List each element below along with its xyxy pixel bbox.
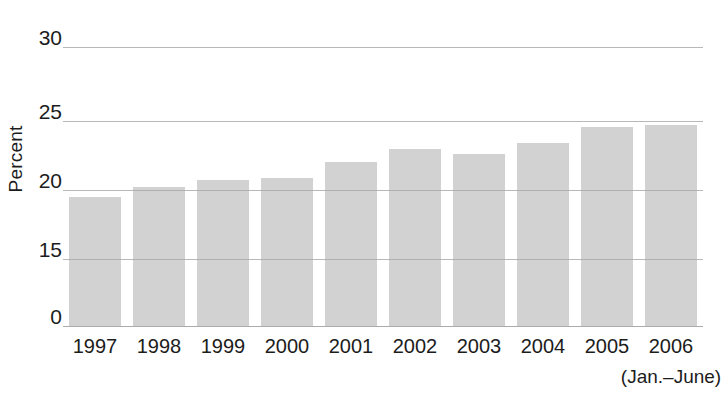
y-tick-label-25: 25	[16, 101, 62, 122]
bar-chart: Percent 30 25 20 15 0 199719981999200020…	[0, 0, 727, 409]
x-tick-label-2006: 2006	[639, 336, 703, 356]
bar-2004	[517, 143, 569, 326]
bar-2001	[325, 162, 377, 326]
x-tick-label-2001: 2001	[319, 336, 383, 356]
bar-2006	[645, 125, 697, 326]
y-tick-label-20: 20	[16, 170, 62, 191]
x-tick-label-1998: 1998	[127, 336, 191, 356]
y-axis-tick-labels: 30 25 20 15 0	[14, 0, 62, 409]
bar-2005	[581, 127, 633, 326]
x-tick-label-2002: 2002	[383, 336, 447, 356]
x-axis-note: (Jan.–June)	[615, 366, 727, 388]
bar-2003	[453, 154, 505, 326]
x-tick-label-1999: 1999	[191, 336, 255, 356]
x-tick-label-2005: 2005	[575, 336, 639, 356]
y-tick-label-15: 15	[16, 239, 62, 260]
bar-1998	[133, 187, 185, 326]
x-tick-label-1997: 1997	[63, 336, 127, 356]
x-tick-label-2004: 2004	[511, 336, 575, 356]
y-tick-label-30: 30	[16, 27, 62, 48]
x-tick-label-2000: 2000	[255, 336, 319, 356]
bar-1997	[69, 197, 121, 326]
y-tick-label-0: 0	[16, 306, 62, 327]
plot-area: 1997199819992000200120022003200420052006…	[63, 0, 703, 409]
bar-2000	[261, 178, 313, 326]
bar-1999	[197, 180, 249, 326]
bar-2002	[389, 149, 441, 326]
x-tick-label-2003: 2003	[447, 336, 511, 356]
